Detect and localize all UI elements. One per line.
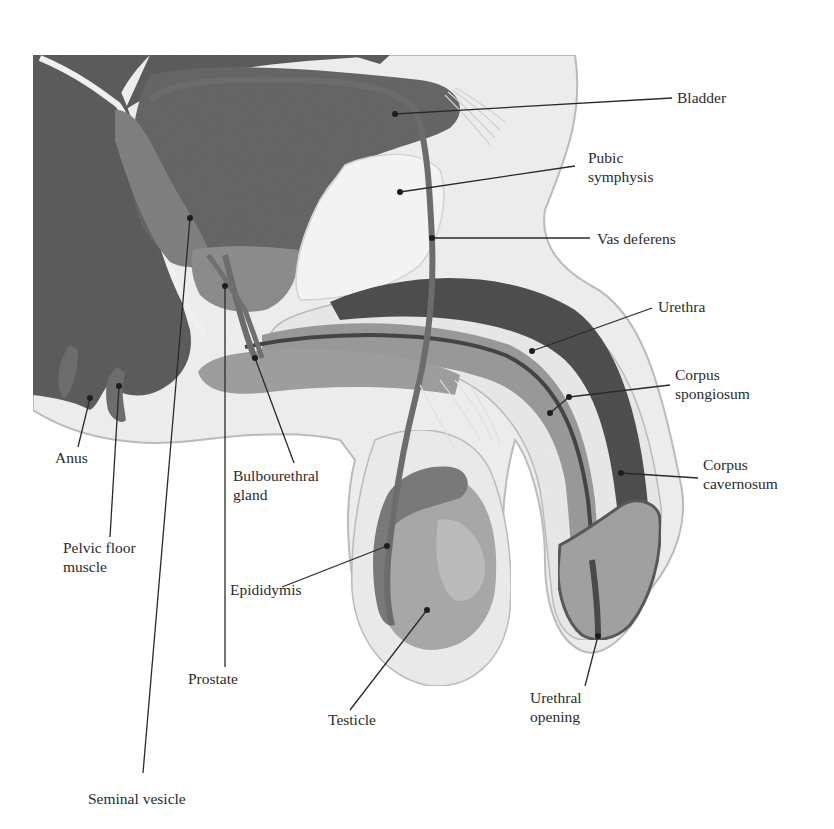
label-prostate: Prostate [188, 669, 238, 688]
vas-deferens-marker-dot [429, 235, 435, 241]
anatomy-illustration [0, 0, 834, 829]
testicle-marker-dot [424, 607, 430, 613]
prostate-marker-dot [222, 283, 228, 289]
label-vas-deferens: Vas deferens [597, 229, 676, 248]
label-anus: Anus [55, 448, 88, 467]
label-corpus-cavernosum: Corpuscavernosum [703, 455, 778, 493]
label-vas-deferens-line: Vas deferens [597, 229, 676, 248]
label-urethral-opening-line: opening [530, 707, 582, 726]
pelvic-floor-muscle-marker-dot [116, 383, 122, 389]
label-bladder: Bladder [677, 88, 726, 107]
seminal-vesicle-marker-dot [187, 215, 193, 221]
label-epididymis: Epididymis [230, 580, 301, 599]
label-urethra-line: Urethra [658, 297, 705, 316]
label-bulbourethral-gland: Bulbourethralgland [233, 466, 319, 504]
label-urethral-opening: Urethralopening [530, 688, 582, 726]
label-pelvic-floor-muscle-line: muscle [63, 557, 136, 576]
urethral-opening-marker-dot [595, 633, 601, 639]
label-pelvic-floor-muscle-line: Pelvic floor [63, 538, 136, 557]
bladder-marker-dot [392, 111, 398, 117]
label-corpus-spongiosum-line: Corpus [675, 365, 750, 384]
pubic-symphysis-marker-dot [397, 189, 403, 195]
label-seminal-vesicle-line: Seminal vesicle [88, 789, 186, 808]
corpus-spongiosum-2-marker-dot [547, 410, 553, 416]
label-pubic-symphysis: Pubicsymphysis [588, 148, 653, 186]
label-corpus-spongiosum: Corpusspongiosum [675, 365, 750, 403]
label-pubic-symphysis-line: Pubic [588, 148, 653, 167]
anatomy-figure: BladderPubicsymphysisVas deferensUrethra… [0, 0, 834, 829]
epididymis-marker-dot [384, 543, 390, 549]
corpus-cavernosum-marker-dot [618, 470, 624, 476]
label-bulbourethral-gland-line: Bulbourethral [233, 466, 319, 485]
label-testicle-line: Testicle [328, 710, 376, 729]
label-testicle: Testicle [328, 710, 376, 729]
label-seminal-vesicle: Seminal vesicle [88, 789, 186, 808]
label-corpus-spongiosum-line: spongiosum [675, 384, 750, 403]
label-corpus-cavernosum-line: Corpus [703, 455, 778, 474]
label-pelvic-floor-muscle: Pelvic floormuscle [63, 538, 136, 576]
anus-marker-dot [87, 395, 93, 401]
label-prostate-line: Prostate [188, 669, 238, 688]
label-urethra: Urethra [658, 297, 705, 316]
label-bladder-line: Bladder [677, 88, 726, 107]
label-epididymis-line: Epididymis [230, 580, 301, 599]
urethra-marker-dot [529, 348, 535, 354]
label-anus-line: Anus [55, 448, 88, 467]
label-urethral-opening-line: Urethral [530, 688, 582, 707]
label-corpus-cavernosum-line: cavernosum [703, 474, 778, 493]
bulbourethral-gland-marker-dot [252, 355, 258, 361]
label-bulbourethral-gland-line: gland [233, 485, 319, 504]
label-pubic-symphysis-line: symphysis [588, 167, 653, 186]
corpus-spongiosum-marker-dot [566, 394, 572, 400]
